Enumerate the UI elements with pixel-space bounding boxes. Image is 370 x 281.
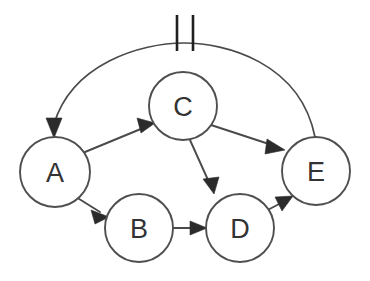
edge-E-to-A-arrowhead <box>46 118 62 138</box>
edge-A-to-B-path <box>76 197 100 212</box>
edge-C-to-D-arrowhead <box>203 177 219 194</box>
node-D-label: D <box>230 214 250 244</box>
graph-canvas: A B C D E <box>0 0 370 281</box>
directed-graph: A B C D E <box>0 0 370 281</box>
node-A-label: A <box>46 158 64 188</box>
edge-A-to-C[interactable] <box>85 118 155 152</box>
edge-C-to-E-arrowhead <box>265 139 285 154</box>
node-C-label: C <box>173 92 193 122</box>
node-B[interactable]: B <box>105 194 173 262</box>
edge-A-to-C-path <box>85 126 148 152</box>
edge-C-to-D[interactable] <box>190 140 219 194</box>
edge-C-to-E-path <box>211 125 272 145</box>
node-C[interactable]: C <box>149 72 217 140</box>
node-B-label: B <box>130 214 148 244</box>
node-A[interactable]: A <box>20 137 90 207</box>
edge-D-to-E-arrowhead <box>275 196 293 211</box>
node-E-label: E <box>307 157 325 187</box>
edge-A-to-B[interactable] <box>76 197 109 224</box>
edge-B-to-D-arrowhead <box>190 221 207 235</box>
edge-B-to-D[interactable] <box>173 221 207 235</box>
edge-C-to-E[interactable] <box>211 125 285 154</box>
edge-C-to-D-path <box>190 140 208 180</box>
edge-E-to-A-tick-marks <box>177 15 193 51</box>
node-E[interactable]: E <box>282 137 350 205</box>
node-D[interactable]: D <box>206 194 274 262</box>
